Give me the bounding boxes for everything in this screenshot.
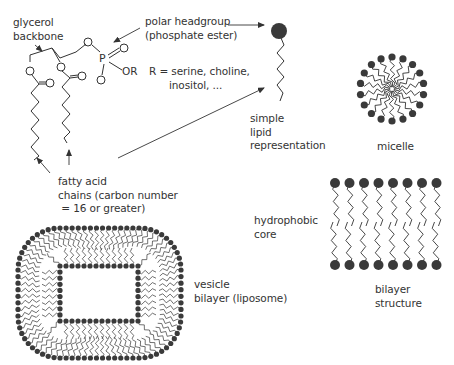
phospholipid-structure <box>26 38 128 160</box>
annotation-arrows <box>35 25 264 173</box>
label-line: fatty acid <box>58 175 178 189</box>
simple-lipid-label: simple lipid representation <box>250 112 326 153</box>
label-line: polar headgroup <box>145 15 237 29</box>
label-line: lipid <box>250 126 326 140</box>
r-group-label: R = serine, choline, inositol, ... <box>149 65 250 92</box>
label-line: backbone <box>13 30 63 44</box>
label-line: simple <box>250 112 326 126</box>
phosphorus-symbol: P <box>99 52 106 65</box>
label-line: bilayer (liposome) <box>194 292 287 306</box>
label-line: inositol, ... <box>149 79 250 93</box>
label-line: representation <box>250 139 326 153</box>
or-group: OR <box>122 65 138 77</box>
simple-lipid-icon <box>271 23 287 101</box>
label-line: bilayer <box>375 283 422 297</box>
hydrophobic-core-label: hydrophobic core <box>254 214 318 241</box>
bilayer-icon <box>330 178 442 270</box>
headgroup-to-phosphate-arrow <box>114 28 140 42</box>
label-line: vesicle <box>194 278 287 292</box>
glycerol-backbone-label: glycerol backbone <box>13 16 63 43</box>
label-line: structure <box>375 297 422 311</box>
label-line: (phosphate ester) <box>145 29 237 43</box>
chain1-arrow <box>37 158 50 173</box>
micelle-icon <box>357 53 427 124</box>
glycerol-arrow <box>35 45 42 51</box>
chains-to-simple-lipid-arrow <box>118 88 264 158</box>
vesicle-bilayer-label: vesicle bilayer (liposome) <box>194 278 287 305</box>
label-line: glycerol <box>13 16 63 30</box>
label-line: core <box>254 228 318 242</box>
bilayer-structure-label: bilayer structure <box>375 283 422 310</box>
lipid-diagram: P OR glycerol backbone polar headgroup (… <box>0 0 454 365</box>
label-line: chains (carbon number <box>58 189 178 203</box>
fatty-acid-chains-label: fatty acid chains (carbon number = 16 or… <box>58 175 178 216</box>
label-line: R = serine, choline, <box>149 65 250 79</box>
vesicle-icon <box>15 225 183 360</box>
label-line: hydrophobic <box>254 214 318 228</box>
micelle-label: micelle <box>377 140 414 154</box>
polar-headgroup-label: polar headgroup (phosphate ester) <box>145 15 237 42</box>
label-line: = 16 or greater) <box>58 202 178 216</box>
